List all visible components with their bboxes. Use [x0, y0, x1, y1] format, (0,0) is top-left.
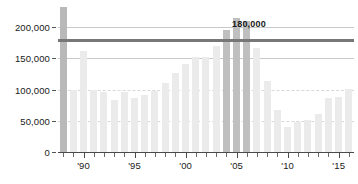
- y-axis-label: 200,000: [15, 22, 50, 33]
- bar-slot: [282, 2, 292, 152]
- x-axis-tick: [328, 153, 329, 157]
- bar: [345, 89, 352, 152]
- bar: [60, 7, 67, 152]
- bar: [111, 100, 118, 152]
- bar: [182, 64, 189, 152]
- bar-slot: [160, 2, 170, 152]
- bar-slot: [129, 2, 139, 152]
- bar: [325, 98, 332, 152]
- x-axis-tick: [216, 153, 217, 157]
- bar-slot: [323, 2, 333, 152]
- x-axis-tick: [186, 153, 187, 158]
- x-axis-tick: [104, 153, 105, 157]
- bar: [121, 92, 128, 152]
- bar: [131, 98, 138, 152]
- bar: [90, 90, 97, 153]
- bar-slot: [333, 2, 343, 152]
- bar-chart: 050,000100,000150,000200,000 180,000 '90…: [0, 0, 358, 184]
- bar-slot: [293, 2, 303, 152]
- bar: [315, 114, 322, 152]
- bar: [80, 51, 87, 152]
- x-axis-tick: [247, 153, 248, 157]
- x-axis-tick: [114, 153, 115, 157]
- bar-slot: [109, 2, 119, 152]
- bar-slot: [68, 2, 78, 152]
- bar: [192, 57, 199, 152]
- x-axis-tick: [298, 153, 299, 157]
- bar: [162, 83, 169, 152]
- bar: [264, 81, 271, 152]
- x-axis-tick: [84, 153, 85, 158]
- x-axis-tick: [63, 153, 64, 157]
- y-axis-tick: [52, 152, 56, 153]
- x-axis-tick: [145, 153, 146, 157]
- y-axis-label: 150,000: [15, 53, 50, 64]
- bar-slot: [150, 2, 160, 152]
- x-axis-tick: [124, 153, 125, 157]
- x-axis-tick: [277, 153, 278, 157]
- bar-slot: [78, 2, 88, 152]
- x-axis-tick: [135, 153, 136, 158]
- bar: [213, 46, 220, 152]
- bar: [70, 90, 77, 153]
- bar: [274, 110, 281, 152]
- x-axis-label: '95: [128, 160, 141, 171]
- bar: [335, 97, 342, 152]
- x-axis-tick: [196, 153, 197, 157]
- bar: [294, 122, 301, 152]
- bar: [202, 57, 209, 152]
- bar-slot: [344, 2, 354, 152]
- x-axis-tick: [165, 153, 166, 157]
- x-axis-tick: [318, 153, 319, 157]
- bar-slot: [303, 2, 313, 152]
- bar-series: [58, 2, 354, 152]
- bar-slot: [191, 2, 201, 152]
- bar-slot: [140, 2, 150, 152]
- y-axis-label: 50,000: [20, 115, 50, 126]
- y-axis-tick: [52, 121, 56, 122]
- bar: [304, 120, 311, 152]
- bar-slot: [272, 2, 282, 152]
- bar-slot: [201, 2, 211, 152]
- bar: [253, 48, 260, 152]
- bar: [151, 91, 158, 152]
- x-axis-tick: [206, 153, 207, 157]
- bar: [100, 92, 107, 152]
- bar: [223, 30, 230, 153]
- bar-slot: [211, 2, 221, 152]
- bar-slot: [89, 2, 99, 152]
- x-axis-tick: [226, 153, 227, 157]
- bar: [284, 127, 291, 152]
- x-axis-label: '10: [281, 160, 294, 171]
- x-axis-label: '90: [77, 160, 90, 171]
- x-axis-label: '15: [332, 160, 345, 171]
- bar: [141, 95, 148, 153]
- bar-slot: [221, 2, 231, 152]
- threshold-line: [58, 39, 354, 42]
- x-axis-tick: [155, 153, 156, 157]
- x-axis-tick: [267, 153, 268, 157]
- bar-slot: [119, 2, 129, 152]
- threshold-label: 180,000: [232, 19, 266, 29]
- x-axis-tick: [339, 153, 340, 158]
- y-axis-label: 0: [45, 147, 50, 158]
- plot-area: 180,000: [58, 2, 354, 152]
- bar-slot: [170, 2, 180, 152]
- y-axis-tick: [52, 90, 56, 91]
- bar-slot: [313, 2, 323, 152]
- y-axis-label: 100,000: [15, 84, 50, 95]
- y-axis-tick: [52, 27, 56, 28]
- x-axis-tick: [257, 153, 258, 157]
- x-axis-ticks: [58, 153, 354, 157]
- bar-slot: [99, 2, 109, 152]
- bar-slot: [180, 2, 190, 152]
- x-axis-tick: [237, 153, 238, 158]
- x-axis-tick: [94, 153, 95, 157]
- y-axis: 050,000100,000150,000200,000: [0, 0, 56, 154]
- y-axis-tick: [52, 58, 56, 59]
- x-axis-labels: '90'95'00'05'10'15: [58, 160, 354, 176]
- x-axis-tick: [175, 153, 176, 157]
- x-axis-tick: [288, 153, 289, 158]
- x-axis-label: '05: [230, 160, 243, 171]
- x-axis-tick: [349, 153, 350, 157]
